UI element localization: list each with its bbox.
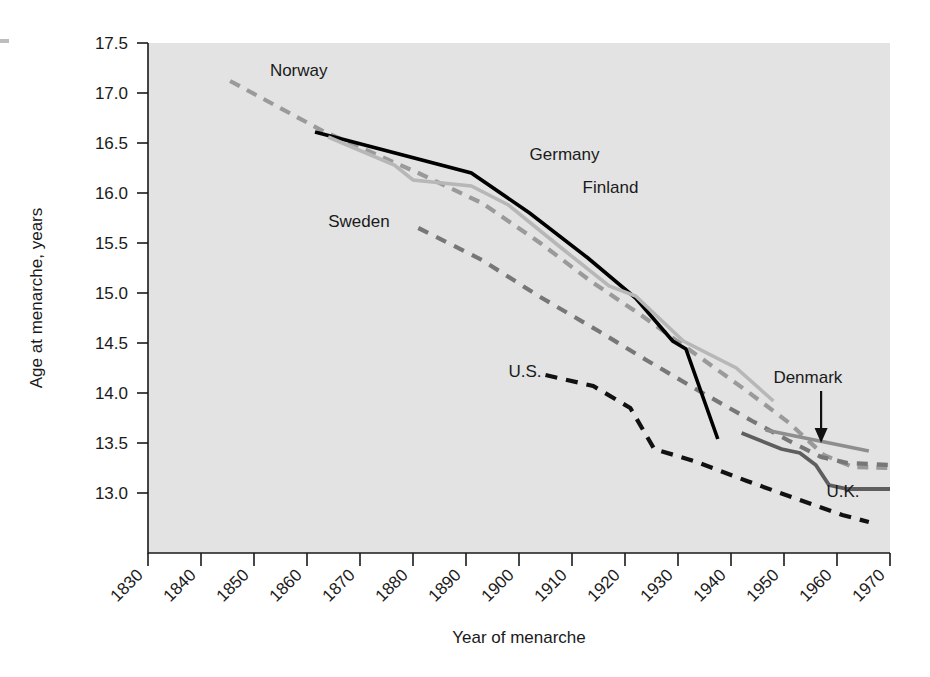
series-label-denmark: Denmark	[773, 368, 842, 387]
series-label-finland: Finland	[583, 178, 639, 197]
series-label-sweden: Sweden	[328, 212, 389, 231]
series-label-u-k: U.K.	[826, 482, 859, 501]
chart-figure: 13.013.514.014.515.015.516.016.517.017.5…	[0, 0, 930, 677]
y-tick-label: 17.0	[95, 84, 128, 103]
series-label-u-s: U.S.	[508, 362, 541, 381]
y-tick-label: 16.0	[95, 184, 128, 203]
y-axis-title: Age at menarche, years	[27, 208, 46, 388]
y-tick-label: 16.5	[95, 134, 128, 153]
y-tick-label: 15.5	[95, 234, 128, 253]
plot-area-background	[148, 43, 890, 553]
y-tick-label: 13.5	[95, 434, 128, 453]
crop-mark	[0, 39, 9, 43]
y-tick-label: 13.0	[95, 484, 128, 503]
y-tick-label: 14.5	[95, 334, 128, 353]
y-tick-label: 17.5	[95, 34, 128, 53]
x-axis-title: Year of menarche	[452, 628, 586, 647]
y-tick-label: 14.0	[95, 384, 128, 403]
y-tick-label: 15.0	[95, 284, 128, 303]
series-label-norway: Norway	[270, 61, 328, 80]
series-label-germany: Germany	[530, 145, 600, 164]
